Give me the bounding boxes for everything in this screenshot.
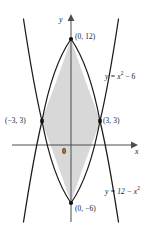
- point-left: [40, 119, 44, 123]
- label-point-0-12: (0, 12): [75, 33, 95, 40]
- point-right: [98, 119, 102, 123]
- y-axis-label: y: [59, 16, 63, 24]
- equation-downward-base: y = 12 − x: [105, 187, 137, 196]
- point-bottom: [69, 201, 73, 205]
- label-point-neg3-3: (−3, 3): [5, 117, 26, 124]
- equation-downward-exponent: 2: [137, 185, 140, 191]
- label-point-0-neg6: (0, −6): [75, 205, 96, 212]
- equation-upward-tail: − 6: [123, 72, 135, 81]
- equation-upward-base: y = x: [105, 72, 121, 81]
- equation-upward-parabola: y = x2 − 6: [105, 73, 135, 81]
- point-top: [69, 37, 73, 41]
- equation-downward-parabola: y = 12 − x2: [105, 188, 140, 196]
- math-figure: y x 0 (0, 12) (0, −6) (−3, 3) (3, 3) y =…: [0, 0, 161, 229]
- label-point-3-3: (3, 3): [103, 117, 120, 124]
- origin-label: 0: [62, 148, 66, 156]
- x-axis-label: x: [135, 148, 139, 156]
